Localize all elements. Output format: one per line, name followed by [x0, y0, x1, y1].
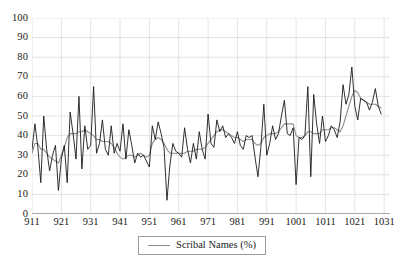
y-axis: 0102030405060708090100: [0, 0, 28, 232]
y-tick-label: 10: [2, 189, 28, 200]
x-tick-label: 921: [53, 216, 69, 228]
x-tick-label: 911: [24, 216, 39, 228]
y-tick-label: 70: [2, 71, 28, 82]
y-tick-label: 100: [2, 13, 28, 24]
x-tick-label: 1021: [344, 216, 365, 228]
y-tick-label: 90: [2, 32, 28, 43]
series-line-annual: [32, 67, 381, 200]
y-tick-label: 30: [2, 150, 28, 161]
horizontal-gridlines: [32, 18, 390, 194]
y-tick-label: 40: [2, 130, 28, 141]
legend: Scribal Names (%): [0, 236, 404, 255]
chart-container: 0102030405060708090100 91192193194195196…: [0, 0, 404, 266]
x-tick-label: 941: [112, 216, 128, 228]
x-tick-label: 951: [142, 216, 158, 228]
x-axis: 9119219319419519619719819911001101110211…: [32, 216, 390, 234]
x-tick-label: 1001: [286, 216, 307, 228]
x-tick-label: 1011: [315, 216, 336, 228]
plot-svg: [32, 18, 390, 214]
legend-line-swatch: [148, 245, 170, 246]
plot-area: [32, 18, 390, 214]
legend-item-label: Scribal Names (%): [176, 239, 256, 251]
y-tick-label: 50: [2, 111, 28, 122]
x-tick-label: 971: [200, 216, 216, 228]
y-tick-label: 80: [2, 52, 28, 63]
x-tick-label: 1031: [374, 216, 395, 228]
x-tick-label: 931: [83, 216, 99, 228]
x-tick-label: 961: [171, 216, 187, 228]
x-tick-label: 991: [259, 216, 275, 228]
y-tick-label: 20: [2, 169, 28, 180]
legend-box: Scribal Names (%): [138, 236, 266, 255]
x-tick-label: 981: [230, 216, 246, 228]
y-tick-label: 60: [2, 91, 28, 102]
